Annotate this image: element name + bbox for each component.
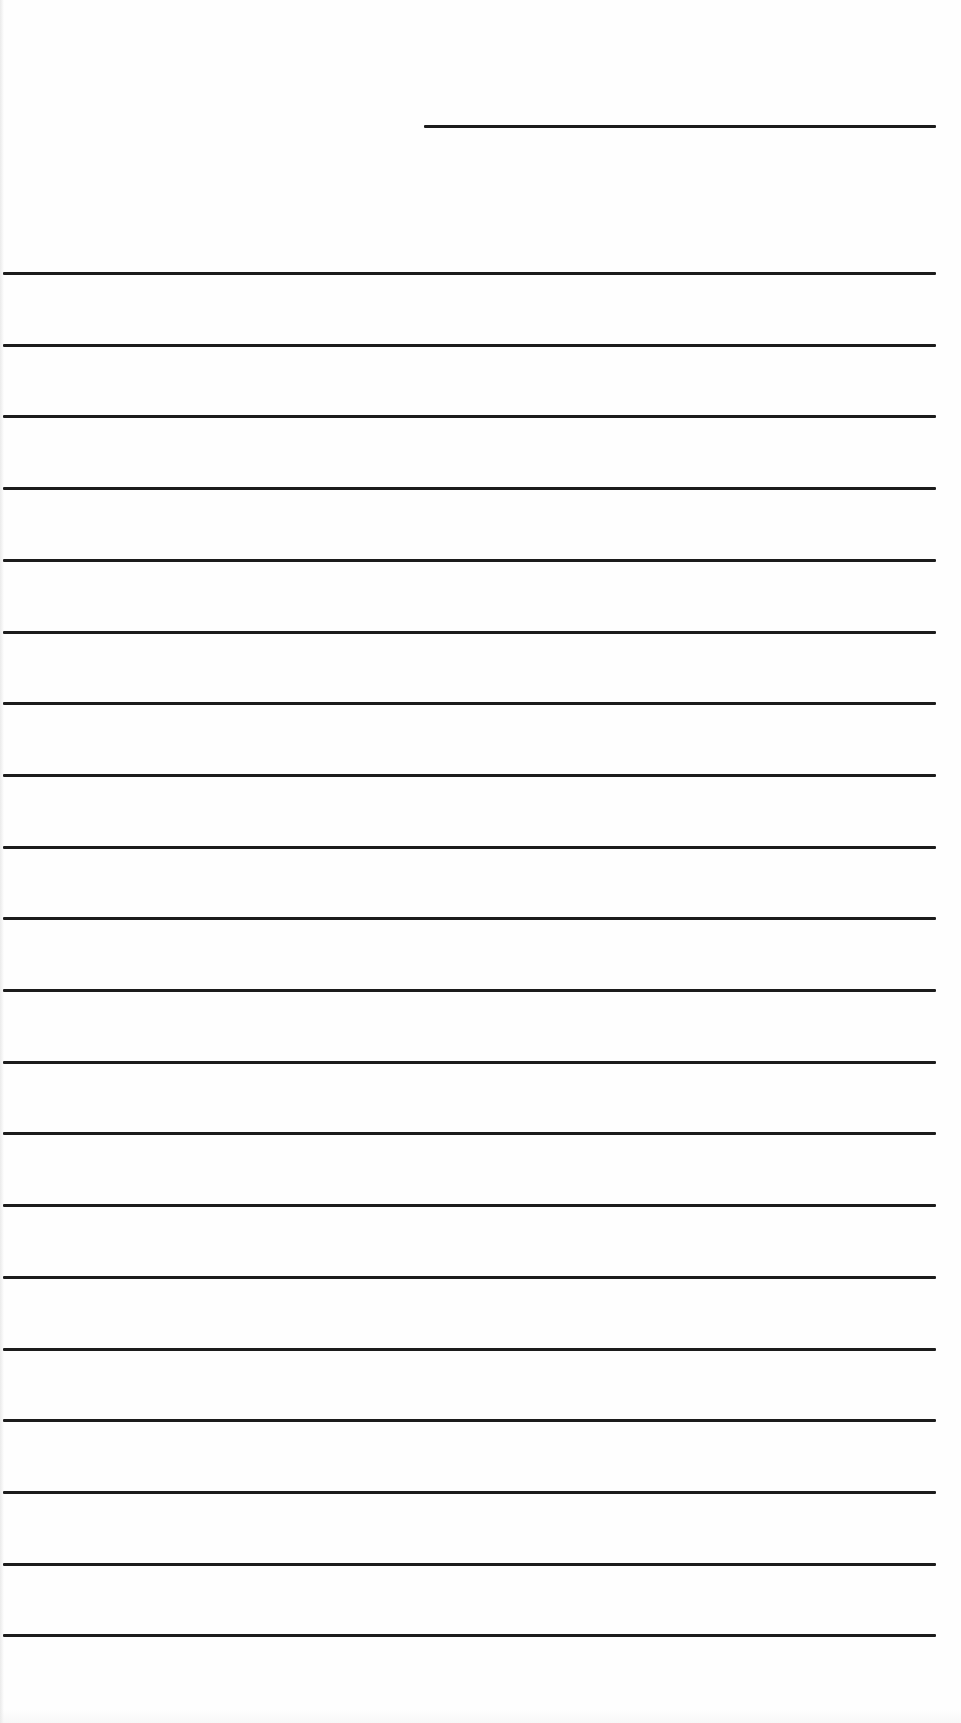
ruled-line <box>3 1276 936 1279</box>
ruled-line <box>3 989 936 992</box>
ruled-line <box>3 344 936 347</box>
ruled-line <box>3 415 936 418</box>
ruled-line <box>3 487 936 490</box>
ruled-line <box>3 1491 936 1494</box>
ruled-line <box>3 1348 936 1351</box>
ruled-line <box>3 1563 936 1566</box>
ruled-line <box>3 1204 936 1207</box>
header-write-in-line <box>424 125 936 128</box>
page-edge-shadow <box>0 0 4 1723</box>
ruled-line <box>3 917 936 920</box>
ruled-line <box>3 1132 936 1135</box>
ruled-line <box>3 1419 936 1422</box>
ruled-line <box>3 1061 936 1064</box>
lined-paper-page <box>0 0 961 1723</box>
ruled-line <box>3 702 936 705</box>
ruled-line <box>3 272 936 275</box>
ruled-line <box>3 559 936 562</box>
ruled-line <box>3 774 936 777</box>
ruled-line <box>3 1634 936 1637</box>
ruled-line <box>3 631 936 634</box>
bottom-bleed-through <box>0 1709 961 1723</box>
ruled-line <box>3 846 936 849</box>
